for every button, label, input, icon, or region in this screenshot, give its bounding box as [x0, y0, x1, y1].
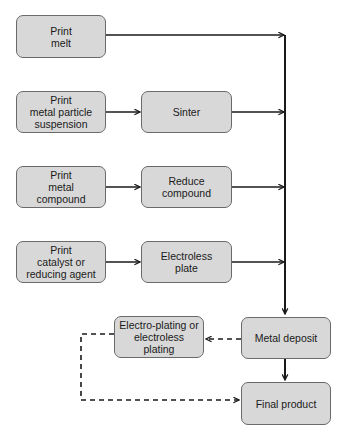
node-print-metal-compound: Print metal compound [16, 166, 106, 208]
node-final-product: Final product [241, 382, 331, 425]
node-electro-plating: Electro-plating or electroless plating [114, 316, 204, 358]
node-sinter: Sinter [141, 91, 232, 133]
node-metal-deposit: Metal deposit [241, 317, 331, 359]
node-print-metal-particle-suspension: Print metal particle suspension [16, 91, 106, 133]
node-electroless-plate: Electroless plate [141, 241, 232, 283]
flowchart-canvas: Print melt Print metal particle suspensi… [0, 0, 347, 437]
flowchart-edges [0, 0, 347, 437]
node-print-catalyst: Print catalyst or reducing agent [16, 241, 106, 283]
node-print-melt: Print melt [16, 15, 106, 58]
node-reduce-compound: Reduce compound [141, 166, 232, 208]
